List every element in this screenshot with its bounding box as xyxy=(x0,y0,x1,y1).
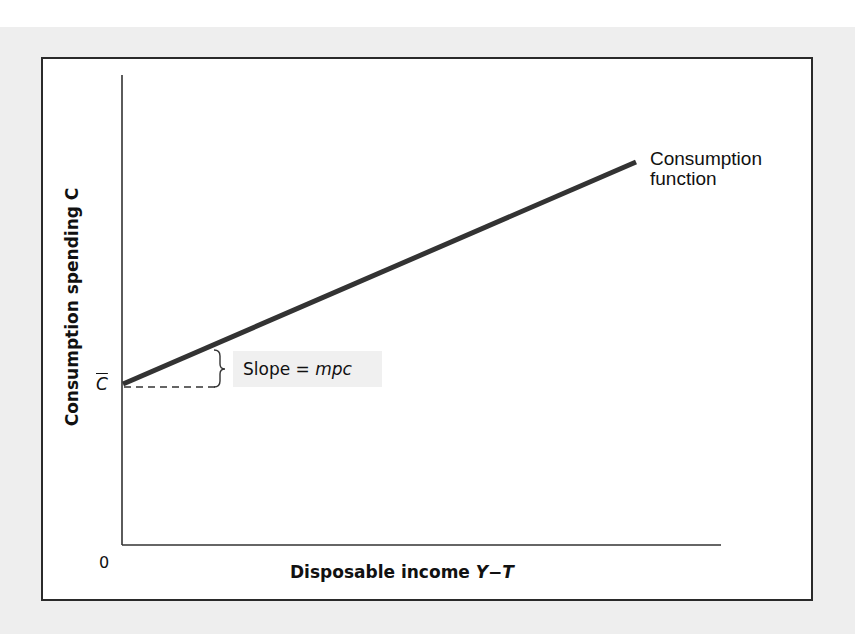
slope-annotation-variable: mpc xyxy=(315,359,352,379)
y-intercept-label: C xyxy=(96,374,108,394)
consumption-function-label: Consumption function xyxy=(650,149,762,189)
series-label-line-2: function xyxy=(650,169,762,189)
origin-label: 0 xyxy=(99,553,109,572)
x-axis-label-text: Disposable income xyxy=(290,562,476,582)
slope-brace-icon xyxy=(214,350,225,387)
series-label-line-1: Consumption xyxy=(650,149,762,169)
slope-annotation: Slope = mpc xyxy=(233,351,382,387)
y-axis-label: Consumption spending C xyxy=(62,188,82,427)
slope-annotation-prefix: Slope = xyxy=(243,359,315,379)
x-axis-label: Disposable income Y−T xyxy=(290,562,514,582)
x-axis-label-variable: Y−T xyxy=(476,562,514,582)
plot-area xyxy=(0,0,855,634)
